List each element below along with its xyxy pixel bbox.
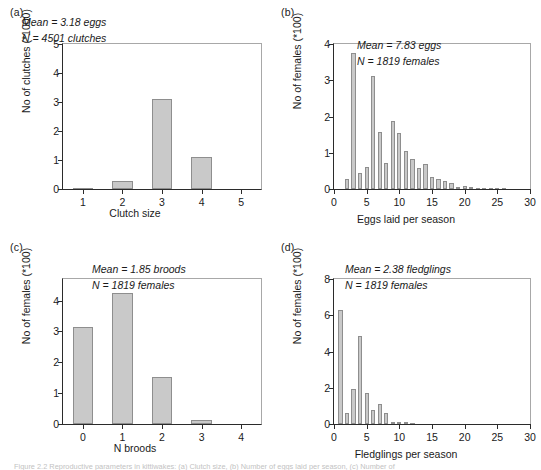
panel-d-x-axis-label: Fledglings per season (271, 448, 541, 460)
x-tick-label: 0 (331, 431, 337, 443)
x-tick (367, 424, 368, 429)
panel-b-annotation-mean: Mean = 7.83 eggs (357, 37, 441, 53)
bar (112, 181, 133, 189)
panel-c-annotation: Mean = 1.85 broods N = 1819 females (92, 261, 186, 293)
bar (378, 132, 382, 189)
bar (371, 410, 375, 425)
y-tick-label: 8 (324, 273, 330, 285)
x-tick (530, 189, 531, 194)
x-tick-label: 20 (459, 431, 471, 443)
x-tick-label: 30 (524, 196, 536, 208)
x-tick-label: 5 (238, 196, 244, 208)
y-tick-label: 2 (324, 382, 330, 394)
panel-c-x-axis-label: N broods (0, 442, 270, 454)
bar (449, 183, 453, 189)
bar (436, 179, 440, 189)
y-tick-label: 4 (53, 67, 59, 79)
x-tick (530, 424, 531, 429)
bar (351, 389, 355, 424)
bar (152, 377, 173, 424)
x-tick-label: 5 (364, 431, 370, 443)
x-tick-label: 0 (331, 196, 337, 208)
x-tick (122, 189, 123, 194)
x-tick (162, 424, 163, 429)
bar (469, 187, 473, 189)
x-tick (497, 189, 498, 194)
y-tick-label: 2 (53, 125, 59, 137)
panel-b-y-axis-label: No of females (*100) (291, 0, 303, 136)
x-tick-label: 0 (80, 431, 86, 443)
panel-d-annotation-mean: Mean = 2.38 fledglings (345, 261, 451, 277)
bar (384, 413, 388, 424)
panel-a-annotation: Mean = 3.18 eggs N = 4501 clutches (22, 14, 106, 46)
panel-c-plot-area: 0123401234 (62, 278, 262, 425)
x-tick-label: 1 (119, 431, 125, 443)
y-tick-label: 4 (324, 346, 330, 358)
bar (482, 188, 486, 189)
panel-d-annotation: Mean = 2.38 fledglings N = 1819 females (345, 261, 451, 293)
x-tick (367, 189, 368, 194)
y-tick-label: 2 (53, 356, 59, 368)
panel-c-y-axis-label: No of females (*100) (20, 221, 32, 371)
bar (365, 393, 369, 424)
x-tick-label: 4 (238, 431, 244, 443)
y-tick-label: 6 (324, 309, 330, 321)
y-tick-label: 3 (53, 325, 59, 337)
bar (351, 53, 355, 189)
bar (358, 173, 362, 189)
x-tick-label: 3 (199, 431, 205, 443)
bar (112, 293, 133, 424)
x-tick (202, 189, 203, 194)
x-tick-label: 10 (393, 431, 405, 443)
bar (345, 179, 349, 189)
x-tick-label: 15 (426, 196, 438, 208)
bar (476, 188, 480, 189)
panel-b: (b) No of females (*100) Eggs laid per s… (271, 0, 541, 235)
bar (391, 422, 395, 424)
x-tick-label: 15 (426, 431, 438, 443)
x-tick (497, 424, 498, 429)
x-tick-label: 1 (80, 196, 86, 208)
x-tick (202, 424, 203, 429)
bar (345, 413, 349, 424)
y-tick-label: 1 (53, 154, 59, 166)
panel-d-plot-area: 05101520253002468 (333, 278, 531, 425)
x-tick-label: 25 (491, 431, 503, 443)
x-tick (162, 189, 163, 194)
x-tick-label: 5 (364, 196, 370, 208)
figure-container: (a) No of clutches (*1000) Clutch size 1… (0, 0, 541, 470)
bar (384, 163, 388, 189)
x-tick (465, 424, 466, 429)
x-tick (334, 189, 335, 194)
panel-d: (d) No of females (*100) Fledglings per … (271, 235, 541, 470)
figure-caption: Figure 2.2 Reproductive parameters in ki… (14, 462, 529, 470)
y-tick-label: 4 (324, 38, 330, 50)
x-tick-label: 3 (159, 196, 165, 208)
x-tick-label: 30 (524, 431, 536, 443)
y-tick-label: 1 (324, 147, 330, 159)
x-tick-label: 20 (459, 196, 471, 208)
x-tick (334, 424, 335, 429)
panel-d-y-axis-label: No of females (*100) (291, 221, 303, 371)
y-tick-label: 1 (53, 387, 59, 399)
y-tick-label: 2 (324, 111, 330, 123)
panel-c-bars (63, 279, 261, 424)
panel-d-bars (334, 279, 530, 424)
x-tick (399, 189, 400, 194)
bar (73, 327, 94, 424)
x-tick (241, 424, 242, 429)
x-tick-label: 25 (491, 196, 503, 208)
bar (404, 422, 408, 424)
bar (410, 423, 414, 424)
bar (365, 167, 369, 189)
y-tick-label: 0 (324, 418, 330, 430)
y-tick-label: 0 (53, 183, 59, 195)
panel-d-annotation-n: N = 1819 females (345, 277, 451, 293)
bar (391, 121, 395, 190)
panel-c-annotation-n: N = 1819 females (92, 277, 186, 293)
x-tick (83, 424, 84, 429)
panel-a-x-axis-label: Clutch size (0, 207, 270, 219)
bar (423, 164, 427, 189)
bar (358, 336, 362, 424)
x-tick (83, 189, 84, 194)
